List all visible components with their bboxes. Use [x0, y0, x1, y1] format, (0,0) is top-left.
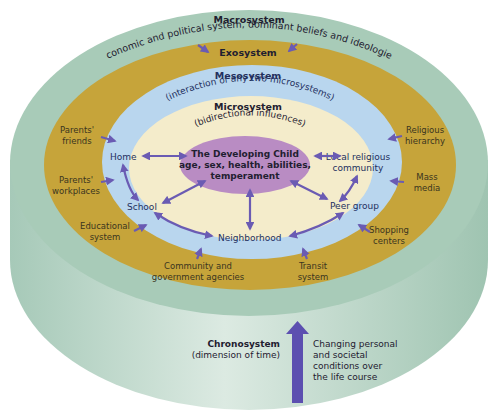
exo-community-government: Community and government agencies	[152, 261, 245, 282]
child-line-3: temperament	[210, 171, 280, 181]
exo-item-line1: Educational	[80, 221, 130, 231]
child-line-2: age, sex, health, abilities,	[179, 160, 311, 170]
exo-item-line2: system	[298, 272, 329, 282]
chronosystem-desc-3: conditions over	[313, 361, 383, 371]
exo-item-line1: Mass	[416, 172, 438, 182]
setting-school: School	[127, 202, 157, 212]
exo-item-line2: hierarchy	[405, 136, 445, 146]
exo-item-line1: Shopping	[369, 225, 409, 235]
exo-item-line1: Community and	[164, 261, 232, 271]
exo-item-line1: Parents'	[60, 125, 94, 135]
exo-item-line2: centers	[373, 236, 405, 246]
chronosystem-desc-2: and societal	[313, 350, 368, 360]
chronosystem-desc-4: the life course	[313, 372, 378, 382]
exo-item-line2: system	[90, 232, 121, 242]
exo-item-line2: workplaces	[52, 186, 100, 196]
ecological-systems-diagram: Macrosystem Economic and political syste…	[0, 0, 499, 414]
exo-transit-system: Transit system	[298, 261, 329, 282]
setting-home: Home	[110, 152, 137, 162]
chronosystem-desc-1: Changing personal	[313, 339, 398, 349]
exo-item-line2: government agencies	[152, 272, 245, 282]
setting-neighborhood: Neighborhood	[218, 233, 281, 243]
exo-item-line1: Transit	[298, 261, 328, 271]
exo-religious-hierarchy: Religious hierarchy	[405, 125, 445, 146]
exo-mass-media: Mass media	[414, 172, 440, 193]
chronosystem-subtitle: (dimension of time)	[192, 350, 280, 360]
exo-item-line2: friends	[62, 136, 92, 146]
exo-shopping-centers: Shopping centers	[369, 225, 409, 246]
child-line-1: The Developing Child	[191, 149, 299, 159]
exosystem-title: Exosystem	[219, 47, 277, 58]
exo-item-line2: media	[414, 183, 440, 193]
exo-item-line1: Parents'	[59, 175, 93, 185]
setting-peer-group: Peer group	[330, 201, 379, 211]
chronosystem-title: Chronosystem	[207, 339, 280, 349]
exo-parents-friends: Parents' friends	[60, 125, 94, 146]
exo-item-line1: Religious	[406, 125, 445, 135]
arrow-media-meso	[391, 181, 404, 182]
setting-community: community	[333, 163, 384, 173]
